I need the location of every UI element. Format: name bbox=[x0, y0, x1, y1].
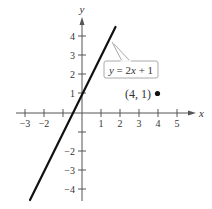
x-tick-label: −2 bbox=[39, 118, 50, 129]
y-tick-label: 1 bbox=[70, 88, 75, 99]
y-axis-arrow-icon bbox=[80, 17, 85, 25]
x-tick-label: 2 bbox=[118, 118, 123, 129]
x-axis-label: x bbox=[198, 107, 204, 119]
equation-label: y = 2x + 1 bbox=[108, 64, 153, 76]
x-tick-label: 4 bbox=[156, 118, 161, 129]
x-axis bbox=[16, 109, 196, 117]
x-tick-label: 1 bbox=[99, 118, 104, 129]
y-tick-label: −4 bbox=[64, 184, 75, 195]
y-tick-label: −2 bbox=[64, 146, 75, 157]
x-tick-label: 3 bbox=[137, 118, 142, 129]
y-axis-label: y bbox=[79, 3, 85, 15]
graph: −3 −2 1 2 3 4 5 x y 4 3 2 1 −2 −3 −4 y =… bbox=[0, 0, 212, 209]
y-tick-label: −3 bbox=[64, 165, 75, 176]
x-tick-label: −3 bbox=[20, 118, 31, 129]
point-4-1 bbox=[155, 91, 160, 96]
y-tick-label: 4 bbox=[70, 31, 75, 42]
y-tick-label: 2 bbox=[70, 69, 75, 80]
x-axis-arrow-icon bbox=[188, 111, 196, 116]
y-tick-label: 3 bbox=[70, 50, 75, 61]
point-label: (4, 1) bbox=[125, 87, 151, 101]
x-tick-label: 5 bbox=[175, 118, 180, 129]
y-axis bbox=[78, 17, 86, 201]
